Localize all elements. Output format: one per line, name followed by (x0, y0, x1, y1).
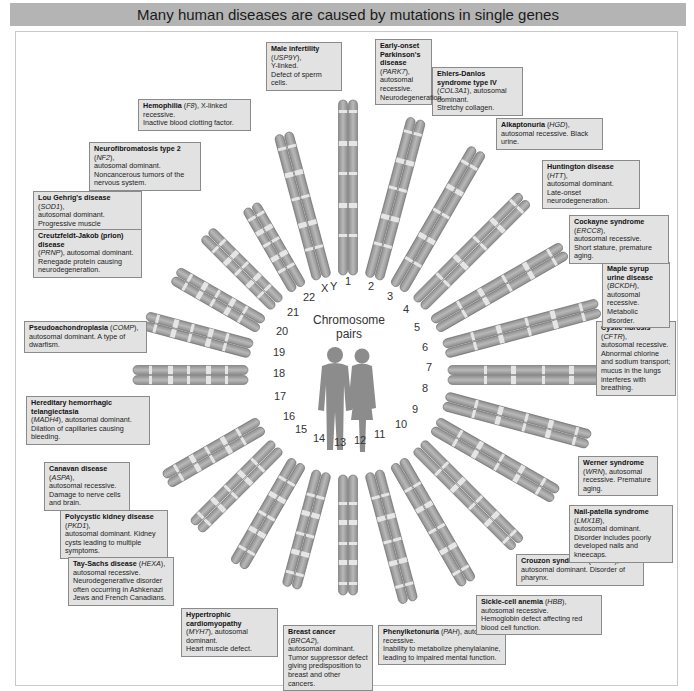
chromosome-label-8: 8 (422, 382, 428, 394)
disease-box-neurofibromatosis: Neurofibromatosis type 2 (NF2),autosomal… (89, 142, 201, 191)
chromosome-label-13: 13 (334, 436, 346, 448)
chromosome-label-1: 1 (345, 275, 351, 287)
chromosome-label-21: 21 (287, 306, 299, 318)
chromosome-label-x: X (321, 282, 328, 294)
chromosome-pair-13 (339, 475, 358, 595)
chromosome-label-4: 4 (403, 303, 409, 315)
center-label: Chromosome pairs (312, 313, 386, 341)
center-label-line2: pairs (312, 327, 386, 341)
disease-box-huntington: Huntington disease (HTT),autosomal domin… (542, 160, 640, 209)
chromosome-label-11: 11 (374, 428, 385, 440)
disease-box-creutzfeldt-jakob: Creutzfeldt-Jakob (prion) disease(PRNP),… (33, 229, 142, 278)
center-label-line1: Chromosome (312, 313, 386, 327)
disease-box-ehlers-danlos: Ehlers-Danlos syndrome type IV(COL3A1), … (432, 67, 523, 116)
chromosome-label-7: 7 (426, 361, 432, 373)
chromosome-label-y: Y (330, 280, 337, 292)
chromosome-pair-2 (365, 117, 426, 281)
disease-box-maple-syrup-urine: Maple syrup urine disease(BCKDH),autosom… (602, 262, 670, 328)
disease-box-canavan: Canavan disease (ASPA),autosomal recessi… (44, 462, 130, 511)
chromosome-label-9: 9 (412, 403, 418, 415)
chromosome-pair-18 (133, 366, 248, 385)
disease-box-polycystic-kidney: Polycystic kidney disease (PKD1),autosom… (60, 510, 168, 559)
chromosome-label-5: 5 (414, 321, 420, 333)
chromosome-pair-1 (339, 100, 358, 275)
disease-box-early-onset-parkinsons: Early-onset Parkinson's disease(PARK7),a… (375, 39, 432, 105)
disease-box-nail-patella: Nail-patella syndrome (LMX1B),autosomal … (569, 505, 673, 563)
disease-box-alkaptonuria: Alkaptonuria (HGD),autosomal recessive. … (496, 118, 603, 150)
chromosome-label-17: 17 (274, 390, 286, 402)
chromosome-label-12: 12 (354, 434, 366, 446)
chromosome-label-6: 6 (422, 341, 428, 353)
disease-box-werner: Werner syndrome(WRN), autosomal recessiv… (578, 456, 658, 496)
disease-box-cystic-fibrosis: Cystic fibrosis (CFTR),autosomal recessi… (596, 321, 676, 396)
chromosome-label-3: 3 (387, 290, 393, 302)
chromosome-label-10: 10 (395, 418, 407, 430)
chromosome-label-19: 19 (273, 346, 285, 358)
human-figures-icon (318, 347, 376, 452)
chromosome-label-22: 22 (303, 291, 315, 303)
chromosome-pair-7 (448, 366, 613, 385)
chromosome-label-18: 18 (273, 367, 285, 379)
disease-box-male-infertility: Male infertility (USP9Y),Y-linked.Defect… (266, 42, 342, 91)
disease-box-tay-sachs: Tay-Sachs disease (HEXA),autosomal reces… (68, 557, 174, 606)
disease-box-cockayne: Cockayne syndrome (ERCC8),autosomal rece… (569, 215, 669, 264)
disease-box-hemophilia: Hemophilia (F8), X-linked recessive.Inac… (138, 99, 251, 131)
chromosome-label-2: 2 (368, 280, 374, 292)
disease-box-hereditary-hemorrhagic-telangiectasia: Hereditary hemorrhagic telangiectasia(MA… (26, 396, 150, 445)
chromosome-label-14: 14 (313, 432, 325, 444)
disease-box-hypertrophic-cardiomyopathy: Hypertrophic cardiomyopathy(MYH7), autos… (181, 608, 278, 657)
disease-box-pseudoachondroplasia: Pseudoachondroplasia (COMP),autosomal do… (24, 321, 147, 353)
chromosome-label-15: 15 (295, 423, 307, 435)
disease-box-sickle-cell: Sickle-cell anemia (HBB), autosomal rece… (476, 595, 602, 635)
chromosome-label-16: 16 (283, 410, 295, 422)
chromosome-label-20: 20 (276, 325, 288, 337)
disease-box-breast-cancer: Breast cancer (BRCA2),autosomal dominant… (283, 625, 373, 691)
